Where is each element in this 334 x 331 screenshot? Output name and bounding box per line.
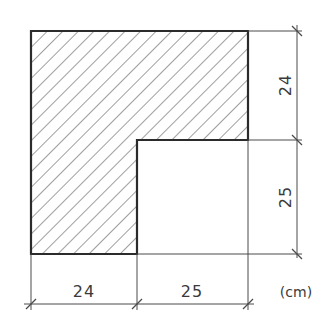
dimension-label-bottom-left: 24 [73,282,95,301]
extension-lines-right [248,31,302,254]
technical-drawing: 24 25 24 25 (cm) [0,0,334,331]
dimension-label-right-bottom: 25 [276,186,295,208]
dimension-label-right-top: 24 [276,74,295,96]
hatched-section [31,31,248,254]
units-label: (cm) [280,284,312,300]
dimension-line-right [292,25,302,259]
dimension-line-bottom [24,299,254,309]
notch-outline [137,140,248,254]
dimension-label-bottom-right: 25 [181,282,203,301]
drawing-svg: 24 25 24 25 (cm) [0,0,334,331]
